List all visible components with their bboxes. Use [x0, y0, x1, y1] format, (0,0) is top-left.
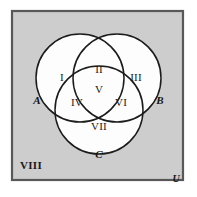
set-label-c: C	[95, 148, 103, 160]
universe-label: U	[172, 173, 180, 184]
region-label-a-only: I	[60, 71, 64, 83]
venn-diagram-canvas: I II III IV V VI VII VIII A B C U	[0, 0, 197, 197]
region-label-complement: VIII	[20, 159, 42, 171]
region-label-a-b-c: V	[95, 83, 103, 95]
region-label-a-b: II	[95, 63, 103, 75]
region-label-b-c: VI	[115, 96, 127, 108]
venn-diagram-figure: I II III IV V VI VII VIII A B C U	[0, 0, 197, 197]
region-label-b-only: III	[130, 71, 142, 83]
region-label-a-c: IV	[71, 96, 83, 108]
region-label-c-only: VII	[91, 120, 107, 132]
set-label-b: B	[155, 94, 163, 106]
set-label-a: A	[32, 94, 40, 106]
